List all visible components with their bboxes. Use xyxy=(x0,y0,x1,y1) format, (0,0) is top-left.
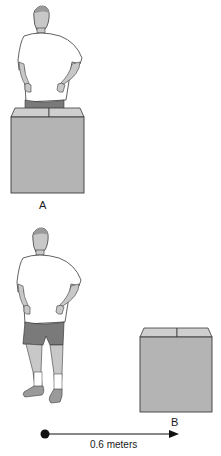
displacement-arrow xyxy=(41,430,180,439)
displacement-label: 0.6 meters xyxy=(90,439,137,450)
shorts xyxy=(23,322,64,345)
box-b xyxy=(140,328,212,412)
diagram-canvas xyxy=(0,0,221,456)
person-a xyxy=(18,6,82,110)
box-a xyxy=(11,108,84,193)
label-b: B xyxy=(171,416,178,428)
person-b xyxy=(17,228,81,403)
arrowhead-icon xyxy=(169,430,179,438)
shoe xyxy=(49,389,62,403)
shoe xyxy=(23,386,44,397)
label-a: A xyxy=(39,199,46,211)
